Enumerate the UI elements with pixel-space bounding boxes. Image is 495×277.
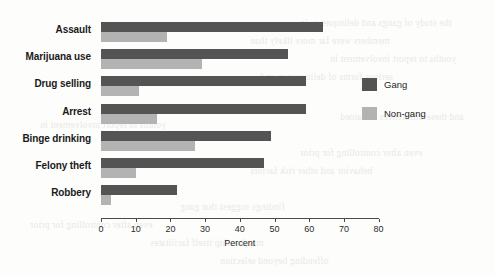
bar-non-gang: [101, 114, 157, 124]
bar-gang: [101, 131, 271, 141]
x-axis-tick-label: 70: [332, 224, 356, 234]
x-axis-tick-label: 50: [263, 224, 287, 234]
x-axis-tick: [101, 219, 102, 222]
x-axis-tick-label: 60: [297, 224, 321, 234]
bar-non-gang: [101, 141, 195, 151]
bar-non-gang: [101, 86, 139, 96]
category-label: Binge drinking: [3, 133, 91, 144]
category-label: Robbery: [3, 187, 91, 198]
legend-swatch-non-gang-icon: [362, 107, 377, 120]
legend-label-gang: Gang: [384, 79, 407, 90]
bar-chart: AssaultMarijuana useDrug sellingArrestBi…: [0, 0, 495, 277]
x-axis-tick-label: 80: [367, 224, 391, 234]
x-axis-tick-label: 10: [124, 224, 148, 234]
x-axis-tick: [275, 219, 276, 222]
category-label: Drug selling: [3, 78, 91, 89]
x-axis-tick: [136, 219, 137, 222]
bar-gang: [101, 76, 306, 86]
x-axis-tick-label: 0: [89, 224, 113, 234]
legend-swatch-gang-icon: [362, 78, 377, 91]
x-axis-tick: [379, 219, 380, 222]
bar-non-gang: [101, 32, 167, 42]
x-axis-tick-label: 30: [193, 224, 217, 234]
bar-non-gang: [101, 195, 111, 205]
bar-gang: [101, 104, 306, 114]
x-axis-tick: [205, 219, 206, 222]
x-axis-tick: [309, 219, 310, 222]
legend-item-gang: Gang: [362, 78, 407, 91]
bar-gang: [101, 49, 288, 59]
x-axis-tick: [344, 219, 345, 222]
bar-gang: [101, 185, 177, 195]
x-axis-tick: [170, 219, 171, 222]
category-label: Felony theft: [3, 160, 91, 171]
x-axis-title: Percent: [200, 238, 280, 248]
x-axis-tick-label: 20: [158, 224, 182, 234]
bar-non-gang: [101, 168, 136, 178]
bar-non-gang: [101, 59, 202, 69]
category-label: Arrest: [3, 106, 91, 117]
bar-gang: [101, 22, 323, 32]
plot-area: AssaultMarijuana useDrug sellingArrestBi…: [0, 0, 495, 277]
category-label: Marijuana use: [3, 51, 91, 62]
x-axis-tick-label: 40: [228, 224, 252, 234]
x-axis-tick: [240, 219, 241, 222]
bar-gang: [101, 158, 264, 168]
legend-label-non-gang: Non-gang: [384, 108, 426, 119]
category-label: Assault: [3, 24, 91, 35]
legend-item-non-gang: Non-gang: [362, 107, 426, 120]
